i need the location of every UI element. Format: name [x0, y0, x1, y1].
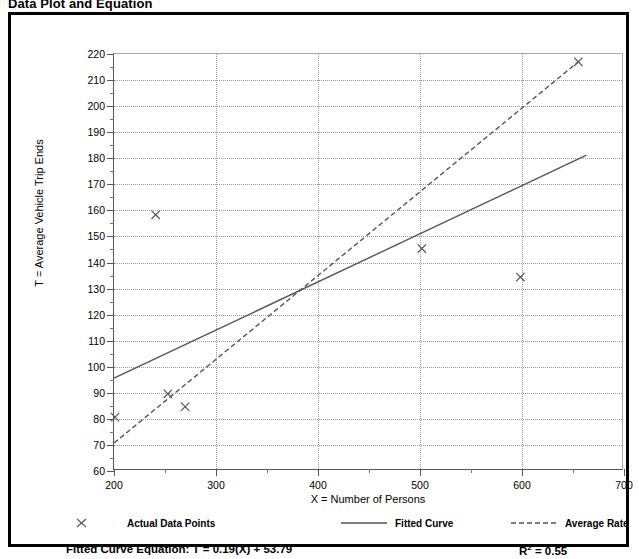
x-axis-tick-minor: [471, 469, 472, 473]
chart-frame: 6070809010011012013014015016017018019020…: [8, 12, 629, 547]
equation-row: Fitted Curve Equation: T = 0.19(X) + 53.…: [11, 543, 626, 559]
y-axis-tick-label: 150: [87, 230, 105, 242]
dashed-line-icon: [511, 517, 557, 529]
y-axis-tick-label: 60: [93, 465, 105, 477]
page-title: Data Plot and Equation: [8, 0, 152, 11]
x-axis-tick-minor: [369, 469, 370, 473]
y-axis-tick-label: 120: [87, 309, 105, 321]
x-axis-tick-label: 200: [105, 479, 123, 491]
plot-area: 6070809010011012013014015016017018019020…: [113, 53, 623, 470]
y-axis-tick-label: 130: [87, 283, 105, 295]
y-axis-tick-label: 200: [87, 100, 105, 112]
y-axis-tick: [107, 184, 114, 185]
x-axis-tick-label: 400: [309, 479, 327, 491]
x-axis-tick-minor: [573, 469, 574, 473]
y-axis-tick-label: 80: [93, 413, 105, 425]
x-axis-tick-label: 600: [513, 479, 531, 491]
y-axis-label: T = Average Vehicle Trip Ends: [33, 113, 45, 313]
r-squared-value: R2 = 0.55: [519, 543, 567, 557]
data-point-marker: [151, 211, 159, 219]
y-axis-tick: [107, 471, 114, 472]
y-axis-tick: [107, 393, 114, 394]
x-axis-tick-label: 700: [615, 479, 633, 491]
x-axis-tick-minor: [267, 469, 268, 473]
y-axis-tick: [107, 132, 114, 133]
y-axis-tick: [107, 210, 114, 211]
data-point-marker: [418, 244, 426, 252]
data-point-marker: [164, 390, 172, 398]
y-axis-tick: [107, 367, 114, 368]
y-axis-tick: [107, 106, 114, 107]
y-axis-tick: [107, 315, 114, 316]
y-axis-tick-label: 70: [93, 439, 105, 451]
y-axis-tick: [107, 158, 114, 159]
fitted-curve-line: [114, 155, 586, 378]
x-axis-tick: [420, 469, 421, 476]
y-axis-tick: [107, 54, 114, 55]
data-point-marker: [111, 413, 119, 421]
fitted-curve-equation: Fitted Curve Equation: T = 0.19(X) + 53.…: [66, 543, 292, 555]
y-axis-tick-label: 140: [87, 257, 105, 269]
x-axis-tick-label: 300: [207, 479, 225, 491]
solid-line-icon: [341, 517, 387, 529]
x-axis-tick: [522, 469, 523, 476]
x-axis-tick: [216, 469, 217, 476]
x-axis-tick: [624, 469, 625, 476]
x-marker-icon: [73, 517, 119, 529]
chart-legend: Actual Data PointsFitted CurveAverage Ra…: [11, 512, 626, 534]
data-point-marker: [574, 58, 582, 66]
x-axis-tick: [318, 469, 319, 476]
legend-label: Fitted Curve: [395, 518, 453, 529]
data-point-marker: [516, 273, 524, 281]
y-axis-tick-label: 170: [87, 178, 105, 190]
legend-label: Actual Data Points: [127, 518, 215, 529]
y-axis-tick-label: 220: [87, 48, 105, 60]
y-axis-tick: [107, 289, 114, 290]
y-axis-tick-label: 110: [88, 335, 105, 347]
x-axis-tick-minor: [165, 469, 166, 473]
data-point-marker: [181, 403, 189, 411]
y-axis-tick: [107, 263, 114, 264]
y-axis-tick-label: 90: [93, 387, 105, 399]
y-axis-tick: [107, 445, 114, 446]
x-axis-tick: [114, 469, 115, 476]
legend-label: Average Rate: [565, 518, 629, 529]
y-axis-tick-label: 180: [87, 152, 105, 164]
y-axis-tick: [107, 341, 114, 342]
y-axis-tick-label: 100: [87, 361, 105, 373]
y-axis-tick: [107, 236, 114, 237]
y-axis-tick-label: 190: [87, 126, 105, 138]
y-axis-tick-label: 210: [87, 74, 105, 86]
data-layer: [114, 54, 622, 469]
average-rate-line: [114, 62, 578, 443]
x-axis-tick-label: 500: [411, 479, 429, 491]
y-axis-tick: [107, 80, 114, 81]
x-axis-label: X = Number of Persons: [113, 493, 623, 505]
y-axis-tick-label: 160: [87, 204, 105, 216]
